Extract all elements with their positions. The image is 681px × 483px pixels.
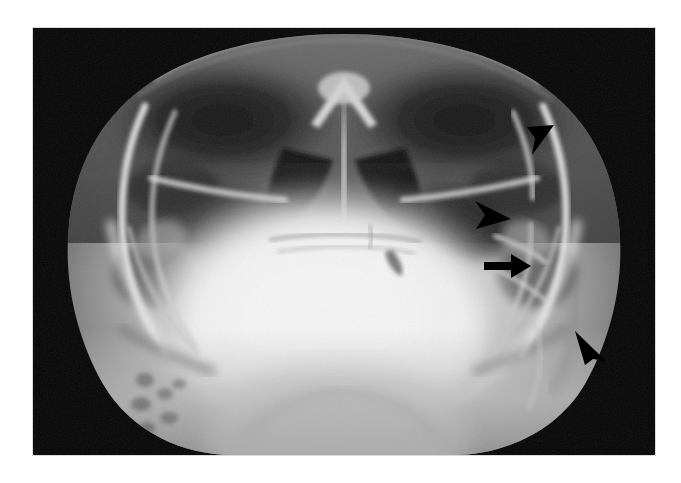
radiograph-film xyxy=(33,28,655,455)
arrowhead-icon-superior[interactable] xyxy=(526,124,556,156)
screenshot-root xyxy=(0,0,681,483)
arrowhead-icon-inferior[interactable] xyxy=(573,330,607,366)
radiograph-image xyxy=(33,28,655,455)
arrow-icon-fracture[interactable] xyxy=(484,253,532,279)
arrowhead-icon-middle[interactable] xyxy=(474,200,512,230)
